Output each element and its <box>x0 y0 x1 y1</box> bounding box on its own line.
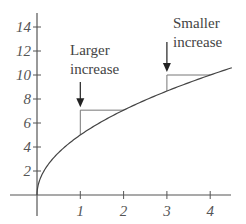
y-tick-label: 8 <box>24 91 32 107</box>
arrow-head-icon <box>163 63 171 72</box>
y-tick-label: 6 <box>24 115 32 131</box>
annotation-label: increase <box>70 61 119 77</box>
y-tick-label: 12 <box>16 43 32 59</box>
annotation-label: Larger <box>70 42 110 58</box>
annotation-label: Smaller <box>173 15 220 31</box>
y-tick-label: 2 <box>24 163 32 179</box>
chart: 12342468101214 LargerincreaseSmallerincr… <box>0 0 246 224</box>
annotations: LargerincreaseSmallerincrease <box>70 15 222 107</box>
annotation-label: increase <box>173 34 222 50</box>
x-tick-label: 3 <box>162 203 171 219</box>
sqrt-curve <box>37 68 232 195</box>
arrow-head-icon <box>76 98 84 107</box>
x-tick-label: 2 <box>120 203 128 219</box>
y-tick-label: 14 <box>16 19 32 35</box>
y-tick-label: 4 <box>24 139 32 155</box>
y-tick-label: 10 <box>16 67 32 83</box>
increase-triangles <box>80 75 210 135</box>
x-tick-label: 4 <box>206 203 214 219</box>
x-tick-label: 1 <box>77 203 85 219</box>
